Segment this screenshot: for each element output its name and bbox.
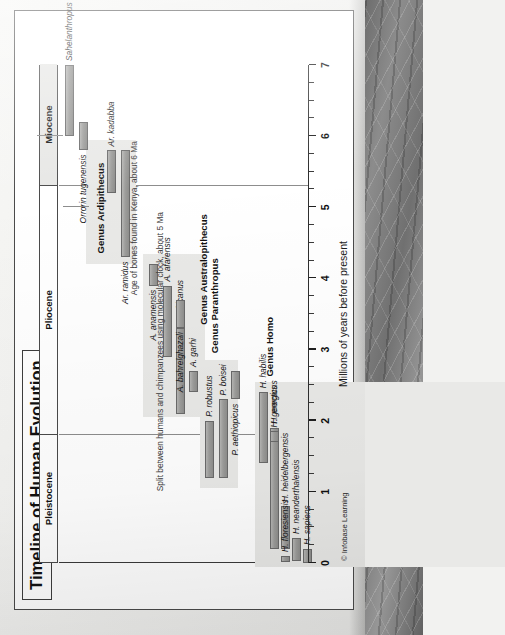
- x-tick-minor: [309, 224, 314, 225]
- species-range-bar: [107, 150, 116, 193]
- epoch-cell-pleistocene: Pleistocene: [40, 434, 57, 562]
- x-tick-minor: [309, 384, 314, 385]
- x-tick-minor: [309, 509, 314, 510]
- x-axis-title: Millions of years before present: [337, 65, 349, 563]
- x-tick-minor: [309, 473, 314, 474]
- x-tick-major: [309, 135, 316, 136]
- species-range-bar: [205, 421, 214, 478]
- species-range-bar: [176, 300, 185, 328]
- group-label: Genus Australopithecus: [198, 214, 209, 325]
- epoch-cell-pliocene: Pliocene: [40, 185, 57, 434]
- x-tick-major: [309, 277, 316, 278]
- species-range-bar: [189, 371, 198, 392]
- group-label: Genus Ardipithecus: [95, 163, 106, 254]
- annotation-marker-line: [37, 135, 63, 136]
- epoch-header-strip: PleistocenePlioceneMiocene: [39, 65, 58, 563]
- figure-rotation-wrapper: Timeline of Human Evolution PleistoceneP…: [14, 10, 354, 610]
- chart-annotation: Split between humans and chimpanzees usi…: [155, 212, 165, 491]
- species-range-bar: [281, 556, 290, 562]
- species-range-bar: [65, 65, 74, 136]
- species-label: P. boisei: [218, 364, 228, 395]
- x-tick-major: [309, 348, 316, 349]
- x-tick-minor: [309, 189, 314, 190]
- species-label: P. robustus: [204, 375, 214, 416]
- x-tick-minor: [309, 402, 314, 403]
- species-range-bar: [270, 428, 279, 549]
- x-tick-major: [309, 562, 316, 563]
- x-tick-minor: [309, 242, 314, 243]
- species-range-bar: [259, 392, 268, 463]
- x-tick-major: [309, 491, 316, 492]
- x-tick-label: 2: [319, 418, 331, 424]
- species-label: P. aethiopicus: [230, 404, 240, 456]
- species-label: H. floresiensis: [280, 499, 290, 552]
- species-range-bar: [292, 538, 301, 561]
- species-label: A. garhi: [188, 338, 198, 367]
- epoch-label: Pleistocene: [43, 472, 54, 525]
- x-tick-minor: [309, 260, 314, 261]
- species-range-bar: [270, 431, 279, 442]
- epoch-label: Miocene: [43, 105, 54, 143]
- chart-annotation: Age of bones found in Kenya, about 6 Ma: [129, 141, 139, 295]
- x-tick-minor: [309, 117, 314, 118]
- species-range-bar: [219, 399, 228, 477]
- species-label: Orrorin tugenensis: [78, 154, 88, 223]
- x-tick-minor: [309, 366, 314, 367]
- group-label: Genus Paranthropus: [209, 258, 220, 353]
- species-range-bar: [79, 122, 88, 150]
- copyright-credit: © Infobase Learning: [340, 492, 349, 561]
- x-tick-minor: [309, 526, 314, 527]
- x-tick-minor: [309, 100, 314, 101]
- x-tick-minor: [309, 544, 314, 545]
- x-tick-label: 4: [319, 276, 331, 282]
- x-tick-minor: [309, 438, 314, 439]
- x-tick-minor: [309, 313, 314, 314]
- annotation-marker-line: [63, 206, 89, 207]
- chart-plot-area: Genus HomoH. sapiensH. neanderthalensisH…: [59, 65, 309, 563]
- x-tick-minor: [309, 82, 314, 83]
- x-tick-minor: [309, 295, 314, 296]
- x-tick-minor: [309, 171, 314, 172]
- x-tick-minor: [309, 455, 314, 456]
- x-tick-minor: [309, 331, 314, 332]
- x-tick-label: 0: [319, 560, 331, 566]
- x-tick-major: [309, 206, 316, 207]
- species-label: A. bahrelghazali: [175, 332, 185, 392]
- species-label: Sahelanthropus tchadensis: [64, 0, 74, 61]
- x-tick-label: 6: [319, 133, 331, 139]
- x-tick-major: [309, 419, 316, 420]
- epoch-cell-miocene: Miocene: [40, 64, 57, 185]
- species-label: H. habilis: [258, 354, 268, 388]
- species-range-bar: [231, 371, 240, 399]
- x-tick-minor: [309, 153, 314, 154]
- species-label: Ar. kadabba: [106, 102, 116, 147]
- x-tick-label: 5: [319, 204, 331, 210]
- species-label: H. heidelbergensis: [280, 433, 290, 502]
- species-label: H. georgicus: [269, 380, 279, 427]
- x-tick-major: [309, 64, 316, 65]
- x-tick-label: 1: [319, 489, 331, 495]
- x-axis-line: [308, 65, 309, 563]
- epoch-label: Pliocene: [43, 290, 54, 329]
- x-tick-label: 3: [319, 347, 331, 353]
- timeline-figure: Timeline of Human Evolution PleistoceneP…: [14, 10, 354, 610]
- species-label: H. neanderthalensis: [291, 460, 301, 535]
- x-tick-label: 7: [319, 62, 331, 68]
